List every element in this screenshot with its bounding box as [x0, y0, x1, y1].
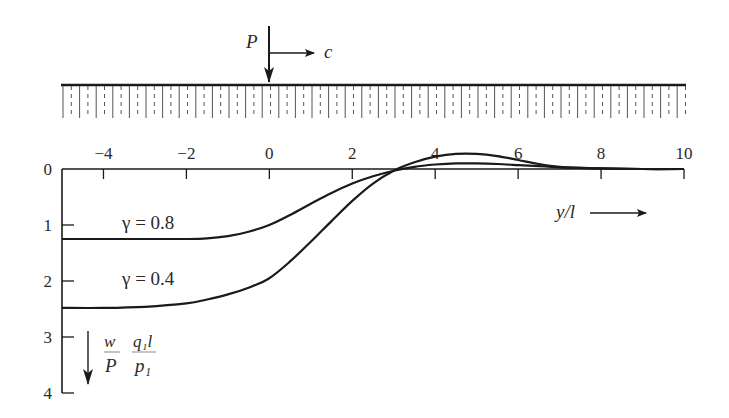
frac1-denominator: P	[104, 355, 117, 376]
y-tick-label: 3	[44, 328, 53, 347]
y-tick-label: 2	[44, 272, 53, 291]
x-tick-label: 4	[431, 144, 440, 163]
y-axis-ticks: 01234	[44, 160, 75, 403]
y-axis-label: w P q₁l p₁	[88, 331, 156, 384]
x-axis-title: y/l	[554, 201, 575, 222]
curve-label-gamma-0-4: γ = 0.4	[121, 268, 175, 289]
load-label: P	[245, 31, 258, 52]
y-tick-label: 1	[44, 216, 53, 235]
frac1-numerator: w	[104, 332, 116, 351]
curve-label-gamma-0-8: γ = 0.8	[121, 212, 174, 233]
hatch-pattern	[63, 86, 686, 118]
moving-load: P c	[245, 26, 333, 82]
y-tick-label: 0	[44, 160, 53, 179]
x-tick-label: 0	[265, 144, 274, 163]
x-tick-label: 8	[597, 144, 606, 163]
frac2-denominator: p₁	[133, 355, 151, 376]
y-tick-label: 4	[44, 384, 53, 403]
deflection-diagram: P c −4−20246810 01234 γ = 0.8 γ = 0.4 y/…	[0, 0, 729, 418]
x-tick-label: −4	[94, 144, 113, 163]
foundation-surface	[61, 85, 686, 118]
x-axis-ticks: −4−20246810	[94, 144, 692, 179]
velocity-label: c	[324, 41, 333, 62]
x-tick-label: 10	[676, 144, 693, 163]
frac2-numerator: q₁l	[133, 332, 152, 351]
x-tick-label: −2	[177, 144, 195, 163]
x-tick-label: 2	[348, 144, 357, 163]
x-axis-label: y/l	[554, 201, 646, 222]
